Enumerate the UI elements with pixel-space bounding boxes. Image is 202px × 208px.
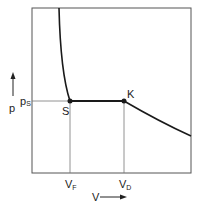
vapor-curve <box>124 101 191 136</box>
y-arrow-head-icon <box>11 72 16 79</box>
x-axis-label: V <box>92 191 100 203</box>
tick-vd: VD <box>119 178 131 191</box>
y-axis-label: p <box>9 102 15 114</box>
label-k: K <box>127 88 135 100</box>
tick-vf: VF <box>65 178 77 191</box>
x-arrow-head-icon <box>120 195 127 200</box>
pressure-label: pS <box>20 95 31 107</box>
label-s: S <box>62 105 69 117</box>
point-k <box>122 99 127 104</box>
plot-frame <box>32 8 191 173</box>
liquid-curve <box>59 8 70 101</box>
point-s <box>68 99 73 104</box>
pv-diagram: p pS S K VF VD V <box>0 0 202 208</box>
